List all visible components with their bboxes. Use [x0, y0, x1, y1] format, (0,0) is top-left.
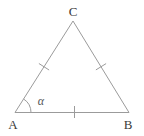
tick-mark-ac: [39, 64, 49, 71]
triangle-figure: C A B α: [0, 0, 144, 136]
triangle-diagram: C A B α: [0, 0, 144, 136]
tick-mark-cb: [96, 64, 106, 70]
vertex-label-b: B: [124, 117, 133, 132]
vertex-label-a: A: [8, 117, 18, 132]
vertex-label-c: C: [69, 4, 78, 19]
angle-label-alpha: α: [38, 94, 45, 108]
angle-arc: [24, 99, 31, 113]
